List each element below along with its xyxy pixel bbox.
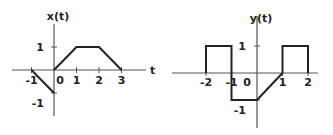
x-tick-label: 1 — [73, 74, 81, 87]
x-tick-label: 2 — [304, 76, 312, 89]
signal-diagram: x(t)t-101231-1 y(t)-2-10121-1 — [0, 0, 333, 135]
axis-variable-label: t — [150, 64, 155, 77]
x-tick-label: 0 — [243, 76, 251, 89]
signal-waveform — [54, 47, 122, 70]
plot-title: y(t) — [250, 12, 272, 25]
x-tick-label: 1 — [279, 76, 287, 89]
x-tick-label: -2 — [200, 76, 212, 89]
x-tick-label: 0 — [56, 74, 64, 87]
y-tick-label: 1 — [36, 41, 44, 54]
x-tick-label: 3 — [118, 74, 126, 87]
y-tick-label: -1 — [234, 104, 246, 117]
x-tick-label: -1 — [25, 74, 37, 87]
plot-x: x(t)t-101231-1 — [12, 10, 155, 116]
y-tick-label: -1 — [32, 97, 44, 110]
plot-title: x(t) — [47, 10, 69, 23]
x-tick-label: 2 — [95, 74, 103, 87]
y-tick-label: 1 — [238, 40, 246, 53]
plot-y: y(t)-2-10121-1 — [172, 12, 318, 128]
